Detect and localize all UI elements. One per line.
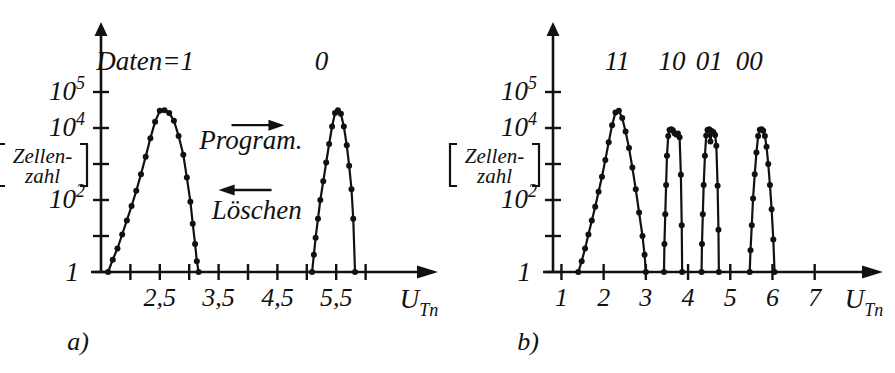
data-point <box>105 269 111 275</box>
data-point <box>609 122 615 128</box>
data-point <box>639 233 645 239</box>
panel-caption: a) <box>67 327 89 356</box>
data-point <box>770 236 776 242</box>
data-point <box>760 128 766 134</box>
data-point <box>348 186 354 192</box>
data-point <box>329 124 335 130</box>
data-series <box>747 126 778 275</box>
data-point <box>661 241 667 247</box>
y-axis-arrowhead <box>547 22 560 36</box>
data-point <box>119 232 125 238</box>
y-label-1e4: 104 <box>49 109 85 142</box>
data-point <box>194 258 200 264</box>
data-point <box>747 269 753 275</box>
data-point <box>765 161 771 167</box>
data-point <box>184 175 190 181</box>
series-line <box>312 110 355 272</box>
data-point <box>664 153 670 159</box>
data-point <box>323 160 329 166</box>
data-point <box>602 157 608 163</box>
data-point <box>596 189 602 195</box>
data-point <box>187 199 193 205</box>
data-point <box>661 269 667 275</box>
data-point <box>346 163 352 169</box>
x-tick-label: 5 <box>724 283 737 312</box>
data-point <box>699 241 705 247</box>
data-point <box>643 269 649 275</box>
data-point <box>753 149 759 155</box>
data-point <box>616 108 622 114</box>
data-point <box>315 216 321 222</box>
data-point <box>679 269 685 275</box>
data-point <box>716 269 722 275</box>
chart-panel-a: 1051041021Zellen-zahl2,53,54,55,5UTnDate… <box>0 0 450 373</box>
data-point <box>764 144 770 150</box>
y-label-1e5: 105 <box>49 73 85 106</box>
data-point <box>629 164 635 170</box>
data-point <box>114 245 120 251</box>
data-series <box>661 126 685 275</box>
data-point <box>311 252 317 258</box>
data-point <box>352 269 358 275</box>
data-point <box>715 227 721 233</box>
data-point <box>665 133 671 139</box>
data-point <box>762 133 768 139</box>
y-axis-arrowhead <box>95 22 108 36</box>
y-label-1: 1 <box>66 257 80 287</box>
chart-svg-panel-a: 1051041021Zellen-zahl2,53,54,55,5UTnDate… <box>0 0 450 373</box>
data-point <box>190 221 196 227</box>
chart-svg-panel-b: 1051041021Zellen-zahl1234567UTn11100100b… <box>445 0 895 373</box>
data-point <box>679 222 685 228</box>
data-point <box>196 269 202 275</box>
state-11-label: 11 <box>605 46 630 76</box>
data-point <box>138 171 144 177</box>
data-point <box>585 232 591 238</box>
data-point <box>147 135 153 141</box>
x-tick-label: 1 <box>555 283 568 312</box>
x-axis-title: UTn <box>845 284 884 320</box>
data-point <box>772 269 778 275</box>
data-point <box>599 174 605 180</box>
data-point <box>582 245 588 251</box>
figure-container: 1051041021Zellen-zahl2,53,54,55,5UTnDate… <box>0 0 895 373</box>
data-point <box>341 124 347 130</box>
x-tick-label: 2 <box>597 283 610 312</box>
data-point <box>633 186 639 192</box>
data-point <box>152 119 158 125</box>
data-point <box>606 139 612 145</box>
arrow-head-icon <box>219 184 235 195</box>
bracket-left-icon <box>450 144 457 186</box>
loeschen-label: Löschen <box>211 195 302 225</box>
data-series <box>699 126 722 275</box>
data-point <box>715 183 721 189</box>
data-point <box>133 188 139 194</box>
data-point <box>626 145 632 151</box>
state-01-label: 01 <box>696 46 723 76</box>
program-label: Program. <box>198 125 302 155</box>
state-00-label: 00 <box>736 46 764 76</box>
x-tick-label: 4,5 <box>261 283 294 312</box>
y-axis-title: Zellen-zahl <box>0 144 87 188</box>
y-axis-title-line2: zahl <box>476 164 512 188</box>
data-series <box>575 108 649 275</box>
series-line <box>664 129 682 272</box>
data-point <box>317 197 323 203</box>
y-axis-title-line2: zahl <box>24 164 60 188</box>
data-point <box>699 269 705 275</box>
data-point <box>344 142 350 148</box>
bracket-right-icon <box>80 144 87 186</box>
data-point <box>350 216 356 222</box>
data-point <box>678 172 684 178</box>
data-point <box>129 203 135 209</box>
data-series <box>105 107 202 275</box>
data-point <box>713 143 719 149</box>
data-point <box>320 178 326 184</box>
data-point <box>662 211 668 217</box>
data-point <box>313 235 319 241</box>
data-point <box>769 206 775 212</box>
data-point <box>180 152 186 158</box>
data-point <box>677 134 683 140</box>
data-point <box>143 154 149 160</box>
data-point <box>703 132 709 138</box>
data-point <box>338 111 344 117</box>
